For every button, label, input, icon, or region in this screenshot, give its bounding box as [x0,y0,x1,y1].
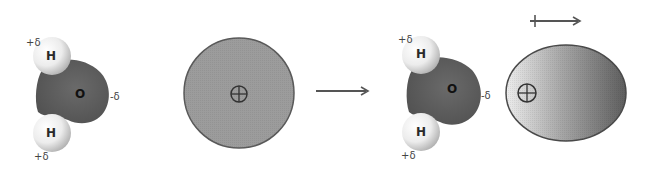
charge-label-h-bottom-left: +δ [34,152,49,162]
charge-label-o-right: -δ [481,91,491,101]
diagram-canvas [0,0,662,171]
ion-polarized [506,45,626,141]
charge-label-h-bottom-right: +δ [401,151,416,161]
charge-label-o-left: -δ [110,92,120,102]
atom-label-h-bottom-left: H [46,127,56,139]
charge-label-h-top-left: +δ [26,38,41,48]
dipole-arrow-icon [530,15,580,27]
water-molecule-left [33,37,109,152]
reaction-arrow-icon [316,87,368,95]
charge-label-h-top-right: +δ [398,35,413,45]
ion-sphere [184,38,294,148]
atom-label-o-left: O [75,88,85,100]
atom-label-h-bottom-right: H [416,126,426,138]
positive-charge-icon [518,84,536,102]
positive-charge-icon [231,86,247,102]
atom-label-h-top-left: H [46,50,56,62]
water-molecule-right [402,36,481,151]
atom-label-h-top-right: H [416,48,426,60]
atom-label-o-right: O [447,83,457,95]
